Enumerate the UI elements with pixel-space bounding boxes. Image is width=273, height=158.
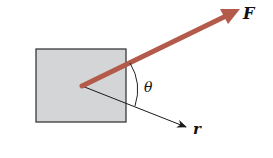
position-label: r bbox=[193, 120, 202, 138]
angle-arc bbox=[130, 63, 138, 106]
angle-label: θ bbox=[144, 79, 153, 95]
torque-diagram: F r θ bbox=[0, 0, 273, 158]
force-label: F bbox=[242, 4, 256, 23]
